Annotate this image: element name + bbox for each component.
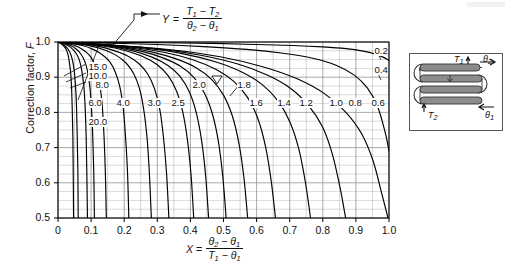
curve-label-1.8: 1.8 xyxy=(237,80,251,90)
y-tick-label: 0.9 xyxy=(20,70,50,82)
curve-label-2.5: 2.5 xyxy=(171,98,185,108)
y-tick-label: 0.7 xyxy=(20,141,50,153)
x-tick-label: 0.2 xyxy=(109,224,139,236)
curve-label-1.0: 1.0 xyxy=(329,98,343,108)
x-tick-label: 1.0 xyxy=(374,224,404,236)
inset-label-theta1: θ1 xyxy=(485,110,494,122)
x-tick-label: 0.8 xyxy=(308,224,338,236)
x-tick-label: 0.5 xyxy=(209,224,239,236)
y-tick-label: 0.5 xyxy=(20,211,50,223)
curve-label-1.4: 1.4 xyxy=(277,98,291,108)
inset-label-T2: T2 xyxy=(428,110,438,122)
heat-exchanger-inset: T1 θ2 T2 θ1 xyxy=(409,53,503,131)
leader-lines xyxy=(64,11,381,100)
curve-label-1.6: 1.6 xyxy=(249,98,263,108)
chart-root: Correction factor, F Y = T1 − T2 θ2 − θ1… xyxy=(0,0,511,270)
x-tick-label: 0.4 xyxy=(175,224,205,236)
inset-label-T1: T1 xyxy=(454,54,464,66)
curve-label-1.2: 1.2 xyxy=(299,98,313,108)
curve-label-20.0: 20.0 xyxy=(88,117,108,127)
y-tick-label: 1.0 xyxy=(20,35,50,47)
inset-label-theta2: θ2 xyxy=(483,54,492,66)
x-tick-label: 0.6 xyxy=(242,224,272,236)
curve-label-4.0: 4.0 xyxy=(116,98,130,108)
curve-label-2.0: 2.0 xyxy=(192,80,206,90)
y-tick-label: 0.6 xyxy=(20,176,50,188)
x-tick-label: 0.9 xyxy=(341,224,371,236)
curve-label-0.6: 0.6 xyxy=(371,98,385,108)
curve-label-0.4: 0.4 xyxy=(374,65,388,75)
curve-label-3.0: 3.0 xyxy=(147,98,161,108)
curve-label-0.8: 0.8 xyxy=(348,98,362,108)
x-tick-label: 0 xyxy=(43,224,73,236)
curve-label-6.0: 6.0 xyxy=(88,98,102,108)
x-tick-label: 0.1 xyxy=(76,224,106,236)
curve-label-8.0: 8.0 xyxy=(95,80,109,90)
x-tick-label: 0.3 xyxy=(142,224,172,236)
y-tick-label: 0.8 xyxy=(20,105,50,117)
x-tick-label: 0.7 xyxy=(275,224,305,236)
curve-label-0.2: 0.2 xyxy=(374,46,388,56)
